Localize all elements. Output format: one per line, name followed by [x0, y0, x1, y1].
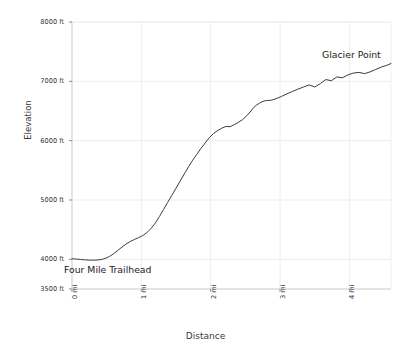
y-tick-label: 8000 ft [20, 18, 64, 26]
elevation-series-line [72, 64, 391, 261]
x-tick-label: 1 mi [140, 284, 148, 299]
x-tick-label: 3 mi [279, 284, 287, 299]
start-annotation: Four Mile Trailhead [64, 264, 151, 275]
x-tick-label: 4 mi [348, 284, 356, 299]
x-tick-label: 0 mi [71, 284, 79, 299]
tick-marks [69, 22, 349, 292]
y-tick-label: 7000 ft [20, 77, 64, 85]
elevation-profile-chart: Elevation Distance 3500 ft4000 ft5000 ft… [0, 0, 411, 359]
y-tick-label: 6000 ft [20, 137, 64, 145]
y-tick-label: 4000 ft [20, 255, 64, 263]
x-tick-label: 2 mi [210, 284, 218, 299]
y-tick-label: 3500 ft [20, 285, 64, 293]
y-tick-label: 5000 ft [20, 196, 64, 204]
end-annotation: Glacier Point [322, 49, 381, 60]
